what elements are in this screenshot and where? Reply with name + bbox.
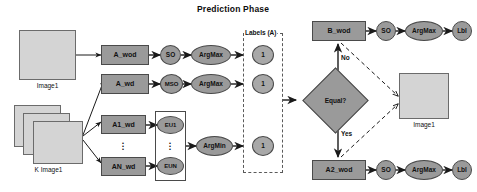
input-image1 — [19, 30, 76, 80]
arrow-kimage-to-an-wd — [83, 140, 101, 163]
input-k-image-caption: K Image1 — [14, 166, 83, 173]
node-so-yes[interactable]: SO — [376, 160, 396, 180]
node-argmax-yes[interactable]: ArgMax — [405, 160, 443, 180]
label-value-mid[interactable]: 1 — [252, 74, 274, 94]
output-image1-caption: Image1 — [399, 121, 449, 128]
node-a-wod[interactable]: A_wod — [101, 45, 149, 65]
node-lbl-yes[interactable]: Lbl — [452, 160, 472, 180]
node-argmax-no[interactable]: ArgMax — [405, 21, 443, 41]
vertical-ellipsis-eu: ... — [165, 140, 175, 149]
node-lbl-no[interactable]: Lbl — [452, 21, 472, 41]
node-argmax-mid[interactable]: ArgMax — [191, 74, 231, 94]
node-b-wod[interactable]: B_wod — [312, 21, 366, 41]
node-so-no[interactable]: SO — [376, 21, 396, 41]
output-image1 — [399, 73, 449, 119]
decision-equal[interactable]: Equal? — [312, 77, 359, 124]
label-value-top[interactable]: 1 — [252, 45, 274, 65]
labels-group-title: Labels (A) — [244, 29, 277, 36]
diagram-canvas: Prediction Phase Image1 K Image1 A_wod S… — [0, 0, 477, 192]
decision-label: Equal? — [312, 77, 359, 124]
node-so-top[interactable]: SO — [160, 45, 181, 65]
node-a1-wd[interactable]: A1_wd — [101, 115, 146, 134]
input-k-image-front — [33, 121, 83, 164]
vertical-ellipsis-processes: ... — [118, 140, 128, 149]
label-value-bottom[interactable]: 1 — [252, 136, 274, 156]
page-title: Prediction Phase — [197, 4, 269, 14]
node-eun[interactable]: EUN — [157, 157, 184, 175]
node-argmax-top[interactable]: ArgMax — [191, 45, 231, 65]
node-a2-wod[interactable]: A2_wod — [312, 160, 366, 180]
node-a-wd[interactable]: A_wd — [101, 74, 149, 94]
node-mso[interactable]: MSO — [160, 74, 183, 94]
node-argmin[interactable]: ArgMin — [196, 136, 233, 156]
input-image1-caption: Image1 — [19, 82, 76, 89]
node-an-wd[interactable]: AN_wd — [101, 157, 146, 176]
branch-label-no: No — [341, 54, 350, 61]
branch-label-yes: Yes — [341, 130, 352, 137]
node-eu1[interactable]: EU1 — [157, 116, 184, 134]
